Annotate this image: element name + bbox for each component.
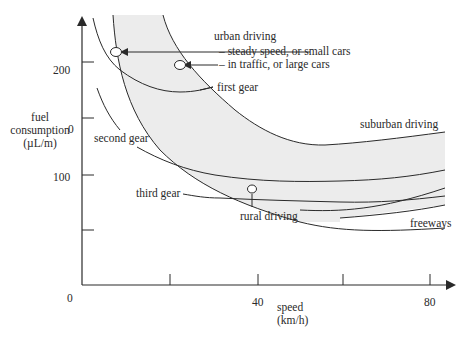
rural-driving-marker <box>248 185 257 193</box>
x-tick-label-40: 40 <box>252 296 264 309</box>
steady-speed-label: – steady speed, or small cars <box>219 45 351 58</box>
first-gear-label: first gear <box>217 81 258 94</box>
y-axis-arrow-icon <box>77 16 87 26</box>
second-gear-label: second gear <box>94 132 149 145</box>
y-axis-label-line2: consumption <box>5 124 75 137</box>
x-axis-arrow-icon <box>446 280 456 290</box>
third-gear-label: third gear <box>136 187 180 200</box>
y-tick-label-100: 100 <box>53 171 70 184</box>
suburban-driving-label: suburban driving <box>360 118 438 131</box>
steady-speed-marker <box>111 48 122 57</box>
in-traffic-label: – in traffic, or large cars <box>219 58 330 71</box>
y-axis-label-line1: fuel <box>5 111 75 124</box>
y-axis-label-line3: (µL/m) <box>5 137 75 150</box>
in-traffic-marker <box>175 61 186 70</box>
urban-driving-label: urban driving <box>214 30 276 43</box>
x-axis-label-line1: speed <box>277 301 303 314</box>
freeways-label: freeways <box>410 217 452 230</box>
x-tick-label-80: 80 <box>424 296 436 309</box>
y-tick-label-200: 200 <box>53 64 70 77</box>
x-axis-label-line2: (km/h) <box>277 314 308 327</box>
rural-driving-label: rural driving <box>240 210 298 223</box>
x-origin-label: 0 <box>67 292 73 305</box>
